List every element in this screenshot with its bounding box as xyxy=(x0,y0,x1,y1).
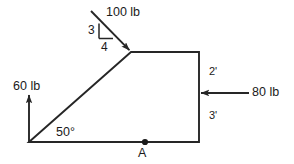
force-100lb-label: 100 lb xyxy=(106,6,140,19)
point-a-label: A xyxy=(138,147,146,160)
free-body-diagram xyxy=(0,0,294,164)
dimension-upper-right-label: 2' xyxy=(209,66,217,77)
angle-50-label: 50° xyxy=(56,126,75,139)
force-80lb-label: 80 lb xyxy=(252,86,279,99)
point-a-dot xyxy=(142,139,148,145)
point-a-marker xyxy=(142,139,148,145)
force-60lb-label: 60 lb xyxy=(13,80,40,93)
dimension-lower-right-label: 3' xyxy=(209,110,217,121)
frame-outline xyxy=(29,52,199,142)
figure-canvas: 100 lb 60 lb 80 lb 3 4 2' 3' 50° A xyxy=(0,0,294,164)
slope-rise-label: 3 xyxy=(88,24,95,36)
frame-member-path xyxy=(29,52,199,142)
slope-run-label: 4 xyxy=(101,41,108,53)
